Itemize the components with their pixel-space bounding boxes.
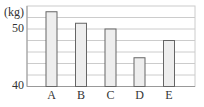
bar-D	[134, 58, 145, 87]
bar-A	[46, 12, 57, 87]
x-tick-D: D	[134, 88, 146, 103]
x-tick-C: C	[105, 88, 117, 103]
x-tick-B: B	[75, 88, 87, 103]
bar-E	[164, 41, 175, 87]
bar-C	[105, 29, 116, 87]
x-tick-E: E	[163, 88, 175, 103]
x-tick-A: A	[46, 88, 58, 103]
bar-B	[76, 23, 87, 86]
bar-chart: (kg) 50 40 A B C D E	[0, 0, 204, 107]
